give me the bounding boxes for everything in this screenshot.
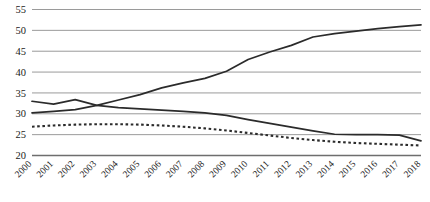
x-axis-tick-label: 2004: [99, 159, 120, 180]
x-axis-tick-label: 2018: [402, 159, 423, 180]
x-axis-tick-label: 2002: [56, 159, 77, 180]
x-axis-tick-label: 2012: [272, 159, 293, 180]
x-axis-tick-label: 2005: [121, 159, 142, 180]
x-axis-tick-label: 2011: [251, 159, 271, 179]
series-line-series-2: [32, 25, 421, 113]
x-axis-tick-label: 2008: [186, 159, 207, 180]
line-chart: 2025303540455055200020012002200320042005…: [0, 0, 430, 202]
x-axis-tick-label: 2014: [315, 159, 336, 180]
x-axis-tick-label: 2003: [78, 159, 99, 180]
y-axis-tick-label: 35: [16, 88, 27, 99]
plot-area: 2025303540455055200020012002200320042005…: [0, 0, 430, 202]
y-axis-tick-label: 30: [16, 108, 27, 119]
y-axis-tick-label: 40: [16, 67, 27, 78]
y-axis-tick-label: 55: [16, 4, 27, 15]
x-axis-tick-label: 2009: [207, 159, 228, 180]
x-axis-tick-label: 2000: [13, 159, 34, 180]
chart-canvas: 2025303540455055200020012002200320042005…: [0, 0, 430, 202]
x-axis-tick-label: 2016: [359, 159, 380, 180]
x-axis-tick-label: 2015: [337, 159, 358, 180]
y-axis-tick-label: 25: [16, 129, 27, 140]
x-axis-tick-label: 2001: [35, 159, 56, 180]
y-axis-tick-label: 50: [16, 25, 27, 36]
x-axis-tick-label: 2007: [164, 159, 185, 180]
x-axis-tick-label: 2010: [229, 159, 250, 180]
x-axis-tick-label: 2006: [143, 159, 164, 180]
x-axis-tick-label: 2013: [294, 159, 315, 180]
x-axis-tick-label: 2017: [380, 159, 401, 180]
y-axis-tick-label: 45: [16, 46, 27, 57]
